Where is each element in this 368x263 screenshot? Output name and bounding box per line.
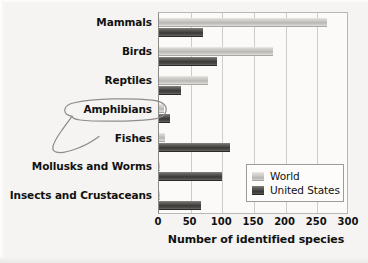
- legend-label-united-states: United States: [270, 184, 340, 196]
- bar-amphibians-world: [159, 104, 164, 113]
- category-label-fishes: Fishes: [115, 132, 152, 144]
- xtick-300: 300: [338, 216, 359, 227]
- page-scan-edge-left: [0, 0, 4, 263]
- xtick-50: 50: [183, 216, 197, 227]
- bar-row-mammals: [159, 14, 347, 43]
- bar-birds-world: [159, 47, 273, 56]
- bar-reptiles-world: [159, 76, 208, 85]
- legend-item-world: World: [252, 169, 338, 183]
- category-label-reptiles: Reptiles: [104, 74, 152, 86]
- bar-birds-united-states: [159, 57, 217, 66]
- bar-row-reptiles: [159, 72, 347, 101]
- category-label-mammals: Mammals: [96, 16, 152, 28]
- xtick-150: 150: [243, 216, 264, 227]
- bar-mollusks-and-worms-united-states: [159, 172, 222, 181]
- species-bar-chart-figure: Mammals Birds Reptiles Amphibians Fishes…: [0, 0, 368, 263]
- bar-reptiles-united-states: [159, 86, 181, 95]
- legend: World United States: [246, 164, 344, 202]
- bar-row-amphibians: [159, 100, 347, 129]
- x-axis-title: Number of identified species: [158, 233, 354, 246]
- bar-insects-and-crustaceans-world: [159, 191, 160, 200]
- xtick-0: 0: [155, 216, 162, 227]
- legend-label-world: World: [270, 170, 300, 182]
- bar-mollusks-and-worms-world: [159, 162, 160, 171]
- category-label-insects-and-crustaceans: Insects and Crustaceans: [10, 189, 152, 201]
- category-label-amphibians: Amphibians: [83, 103, 152, 115]
- bar-mammals-united-states: [159, 28, 203, 37]
- xtick-100: 100: [211, 216, 232, 227]
- page-scan-edge-bottom: [0, 257, 368, 263]
- page-scan-edge-top: [0, 0, 368, 3]
- bar-row-birds: [159, 43, 347, 72]
- xtick-200: 200: [274, 216, 295, 227]
- united-states-swatch-icon: [252, 186, 264, 195]
- bar-amphibians-united-states: [159, 114, 170, 123]
- world-swatch-icon: [252, 172, 264, 181]
- bar-mammals-world: [159, 18, 327, 27]
- category-label-birds: Birds: [122, 45, 152, 57]
- bar-fishes-united-states: [159, 143, 230, 152]
- legend-item-united-states: United States: [252, 183, 338, 197]
- bar-fishes-world: [159, 133, 165, 142]
- bar-insects-and-crustaceans-united-states: [159, 201, 201, 210]
- bar-row-fishes: [159, 129, 347, 158]
- xtick-250: 250: [306, 216, 327, 227]
- category-label-mollusks-and-worms: Mollusks and Worms: [32, 160, 152, 172]
